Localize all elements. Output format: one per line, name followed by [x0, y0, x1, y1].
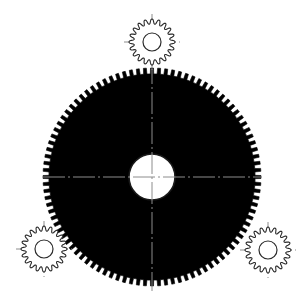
pinion-bore-pinion-bottom-left: [35, 240, 53, 258]
pinion-bore-pinion-top: [143, 33, 161, 51]
gear-assembly-svg: [0, 0, 305, 305]
drawing-canvas: Planetary gear assembly drawing: [0, 0, 305, 305]
gear-pinion-top: [129, 19, 175, 65]
gear-pinion-bottom-right: [245, 227, 291, 273]
gear-pinion-bottom-left: [21, 226, 67, 272]
pinion-bore-pinion-bottom-right: [259, 241, 277, 259]
